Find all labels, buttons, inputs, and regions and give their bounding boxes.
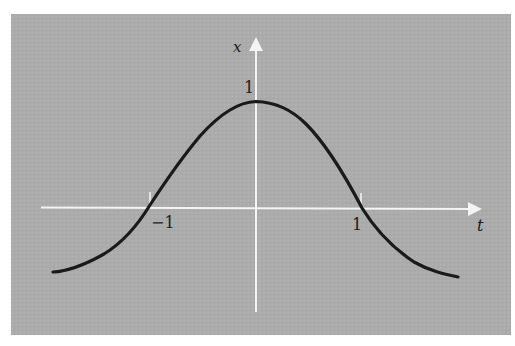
x-tick-label-minus-1: −1 bbox=[151, 213, 175, 232]
plot-background bbox=[11, 14, 511, 335]
y-tick-label-1: 1 bbox=[244, 78, 254, 97]
x-axis-label: t bbox=[477, 216, 484, 235]
chart-figure: x 1 −1 1 t bbox=[0, 0, 515, 346]
y-axis-label: x bbox=[233, 38, 242, 56]
x-tick-label-1: 1 bbox=[352, 215, 362, 234]
